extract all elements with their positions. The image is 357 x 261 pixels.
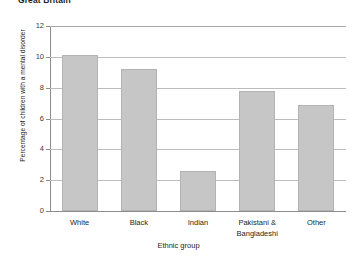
bar [121,69,157,211]
y-tick-mark-8 [46,88,50,89]
y-tick-mark-10 [46,57,50,58]
plot-area [50,26,346,211]
x-axis-line [50,211,346,212]
bar [298,105,334,211]
x-tick-label-line: Bangladeshi [217,229,297,240]
y-tick-mark-4 [46,149,50,150]
bar [62,55,98,211]
y-tick-mark-12 [46,26,50,27]
x-tick-label-line: Other [276,218,356,229]
y-tick-mark-2 [46,180,50,181]
y-tick-label-2: 2 [0,175,44,184]
gridline-12 [50,26,346,27]
y-tick-mark-0 [46,211,50,212]
x-tick-label: Other [276,218,356,229]
y-tick-mark-6 [46,119,50,120]
chart-figure: Great Britain 024681012 Percentage of ch… [0,0,357,261]
bar [180,171,216,211]
chart-title: Great Britain [18,0,71,5]
y-tick-label-0: 0 [0,206,44,215]
bar [239,91,275,211]
y-axis-title: Percentage of children with a mental dis… [19,16,26,176]
x-axis-title: Ethnic group [0,241,357,250]
